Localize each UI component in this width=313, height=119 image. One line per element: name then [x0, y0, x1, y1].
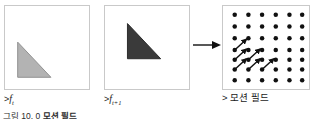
figure-caption: 그림 10. 0 모션 필드: [3, 109, 77, 119]
figure-caption-title: 모션 필드: [43, 111, 77, 119]
panel-label-motion-field: > 모션 필드: [222, 92, 269, 103]
triangle-shape-light: [18, 42, 51, 77]
motion-field-figure: >ft >ft+1 > 모션 필드 그림 10. 0 모션 필드: [0, 0, 313, 119]
panel-motion-field: [222, 5, 310, 90]
label-subscript: t+1: [112, 99, 121, 106]
motion-vector-arrow: [235, 39, 247, 50]
panel-frame-t-plus-1: [104, 5, 190, 90]
motion-vector-arrows: [235, 39, 274, 69]
figure-caption-number: 그림 10. 0: [3, 111, 40, 119]
panel-label-frame-t-plus-1: >ft+1: [104, 93, 122, 108]
panel-label-frame-t: >ft: [4, 93, 14, 108]
label-subscript: t: [12, 99, 14, 106]
triangle-shape-dark: [127, 24, 160, 59]
panel-frame-t: [4, 5, 90, 90]
frame-t-canvas: [5, 6, 89, 89]
frame-t-plus-1-canvas: [105, 6, 189, 89]
rightwards-arrow-icon: [193, 39, 221, 51]
motion-field-canvas: [223, 6, 309, 89]
dot-grid: [232, 13, 304, 83]
